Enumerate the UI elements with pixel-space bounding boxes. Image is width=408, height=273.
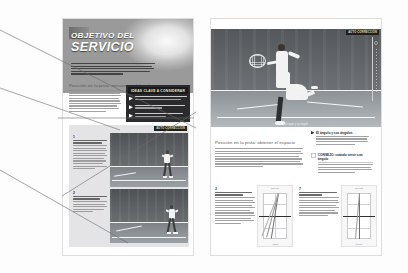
step-number: 7	[299, 187, 339, 191]
page-side-tab[interactable]: marcador lateral	[372, 37, 379, 101]
player-figure	[162, 150, 173, 182]
book-page-right: AUTO CORRECCIÓN El saque y su ángulo	[210, 18, 382, 256]
screenshot-root: OBJETIVO DEL SERVICIO Posición en la pis…	[0, 0, 408, 273]
court-photo-bottom	[110, 189, 188, 243]
module-step-text: 1	[73, 135, 107, 171]
left-body-column	[69, 90, 121, 113]
triangle-bullet-icon	[311, 131, 314, 134]
hero-intro-text	[71, 63, 155, 76]
diagram-text-7: 7	[299, 187, 339, 218]
auto-correction-module: AUTO CORRECCIÓN 1 2	[69, 125, 189, 247]
key-ideas-item: ¿POR DÓNDE SACAR?	[128, 94, 188, 103]
callout-block: El ángulo y sus ángulos 6	[311, 131, 369, 146]
page-title-line2: SERVICIO	[71, 41, 134, 54]
advice-note-header: CONSEJO: cuándo servir con ángulo	[318, 153, 373, 161]
module-tag-badge: AUTO CORRECCIÓN	[154, 126, 187, 131]
side-tab-dot-icon	[374, 41, 378, 45]
triangle-bullet-icon	[129, 97, 133, 101]
racket-icon	[249, 54, 266, 68]
court-diagram-3: Servicio Ángulo	[257, 185, 293, 247]
step-number: 2	[73, 191, 107, 195]
court-photo-top	[110, 133, 188, 187]
side-tab-label: marcador lateral	[373, 37, 374, 38]
key-ideas-header: IDEAS CLAVE A CONSIDERAR	[128, 87, 188, 94]
advice-note-box: CONSEJO: cuándo servir con ángulo	[311, 153, 373, 174]
player-figure	[166, 205, 178, 238]
photo-caption: El saque y su ángulo	[211, 123, 381, 126]
info-icon	[311, 153, 316, 158]
triangle-bullet-icon	[129, 114, 133, 118]
photo-tag-badge: AUTO CORRECCIÓN	[346, 30, 379, 35]
diagram-text-3: 3	[215, 187, 255, 225]
module-step-text: 2	[73, 191, 107, 214]
right-body-column	[215, 148, 303, 169]
step-number: 1	[73, 135, 107, 139]
book-page-left: OBJETIVO DEL SERVICIO Posición en la pis…	[62, 18, 194, 256]
hero-photo-serve: OBJETIVO DEL SERVICIO	[63, 19, 193, 93]
right-section-heading: Posición en la pista: obtener el espacio	[215, 140, 295, 145]
key-ideas-item: EL SERVICIO COMO ARMA	[128, 111, 188, 120]
court-diagram-7: Servicio Centro	[341, 185, 377, 247]
serve-photo-large: AUTO CORRECCIÓN El saque y su ángulo	[211, 29, 381, 127]
diagram-caption-top: Servicio	[342, 187, 376, 189]
page-title: OBJETIVO DEL SERVICIO	[71, 32, 134, 54]
page-title-line1: OBJETIVO DEL	[71, 32, 134, 40]
player-figure-serving	[267, 44, 311, 124]
key-ideas-item: ¿CÓMO SACAR?	[128, 103, 188, 112]
diagram-caption-bottom: Centro	[342, 243, 376, 245]
key-ideas-box: IDEAS CLAVE A CONSIDERAR ¿POR DÓNDE SACA…	[126, 85, 190, 122]
triangle-bullet-icon	[129, 105, 133, 109]
callout-title: El ángulo y sus ángulos	[316, 131, 369, 135]
diagram-caption-top: Servicio	[258, 187, 292, 189]
step-number: 3	[215, 187, 255, 191]
diagram-caption-bottom: Ángulo	[258, 243, 292, 245]
